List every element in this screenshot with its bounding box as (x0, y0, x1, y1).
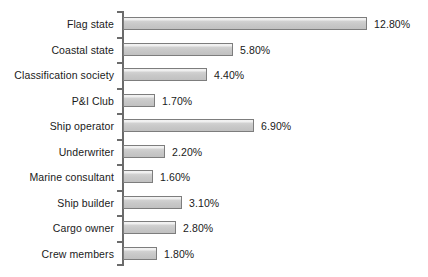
bar (123, 119, 254, 132)
category-label: Ship builder (0, 190, 114, 216)
category-label: Underwriter (0, 139, 114, 165)
category-label: Classification society (0, 62, 114, 88)
bar-row: Cargo owner 2.80% (0, 215, 428, 241)
value-label: 1.80% (164, 241, 194, 267)
bar-row: Crew members 1.80% (0, 241, 428, 267)
value-label: 4.40% (214, 62, 244, 88)
value-label: 3.10% (189, 190, 219, 216)
bar (123, 247, 157, 260)
bar-row: Underwriter 2.20% (0, 139, 428, 165)
bar-row: Flag state 12.80% (0, 11, 428, 37)
category-label: Cargo owner (0, 215, 114, 241)
bar-row: Coastal state 5.80% (0, 37, 428, 63)
bar (123, 170, 153, 183)
value-label: 5.80% (240, 37, 270, 63)
bar-row: P&I Club 1.70% (0, 88, 428, 114)
category-label: Ship operator (0, 113, 114, 139)
category-label: P&I Club (0, 88, 114, 114)
bar (123, 221, 176, 234)
bar (123, 196, 182, 209)
value-label: 1.60% (160, 164, 190, 190)
category-label: Coastal state (0, 37, 114, 63)
bar (123, 145, 165, 158)
bar-row: Ship builder 3.10% (0, 190, 428, 216)
category-label: Crew members (0, 241, 114, 267)
value-label: 2.20% (172, 139, 202, 165)
value-label: 1.70% (162, 88, 192, 114)
value-label: 12.80% (374, 11, 410, 37)
bar (123, 17, 367, 30)
bar-chart: Flag state 12.80% Coastal state 5.80% Cl… (0, 0, 428, 277)
bar-row: Classification society 4.40% (0, 62, 428, 88)
bar-row: Ship operator 6.90% (0, 113, 428, 139)
category-label: Flag state (0, 11, 114, 37)
bar-row: Marine consultant 1.60% (0, 164, 428, 190)
value-label: 2.80% (183, 215, 213, 241)
category-label: Marine consultant (0, 164, 114, 190)
value-label: 6.90% (261, 113, 291, 139)
bar (123, 68, 207, 81)
bar (123, 43, 233, 56)
bar (123, 94, 155, 107)
